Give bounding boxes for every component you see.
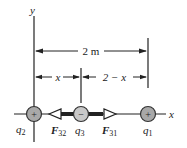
charge-label-q2: q2 [16, 123, 26, 137]
charge-label-q3: q3 [75, 124, 85, 138]
force-arrow-f32 [49, 109, 74, 119]
right-segment-dimension: 2 − x [82, 71, 147, 83]
open-arrowhead-right-icon [104, 109, 116, 119]
force-label-f32: F32 [50, 124, 66, 138]
charge-label-q1: q1 [143, 124, 153, 138]
arrowhead-left-icon [35, 75, 42, 79]
charge-q1: + [141, 107, 156, 122]
plus-sign-icon: + [31, 109, 37, 120]
charge-q2: + [27, 107, 42, 122]
coulomb-force-diagram: y x 2 m x 2 − x + [0, 0, 187, 148]
right-segment-label: 2 − x [103, 71, 126, 83]
x-axis-label: x [168, 108, 174, 120]
minus-sign-icon: − [78, 109, 84, 120]
charge-q3: − [74, 107, 89, 122]
total-distance-label: 2 m [83, 45, 100, 57]
arrowhead-left-icon [82, 75, 89, 79]
y-axis-label: y [29, 4, 35, 16]
arrowhead-right-icon [139, 49, 147, 54]
force-arrow-f31 [88, 109, 116, 119]
arrowhead-left-icon [35, 49, 43, 54]
force-label-f31: F31 [101, 124, 117, 138]
open-arrowhead-left-icon [49, 109, 61, 119]
left-segment-label: x [55, 71, 61, 83]
arrowhead-right-icon [140, 75, 147, 79]
plus-sign-icon: + [145, 109, 151, 120]
arrowhead-right-icon [73, 75, 80, 79]
left-segment-dimension: x [35, 71, 80, 83]
total-distance-dimension: 2 m [35, 45, 147, 57]
